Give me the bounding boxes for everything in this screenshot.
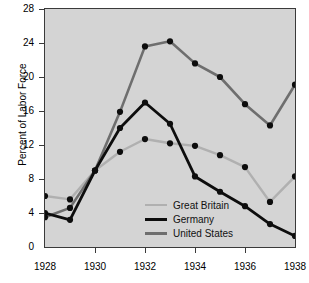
legend-label-germany: Germany (173, 214, 214, 225)
data-point (142, 99, 148, 105)
y-tick-label: 24 (0, 37, 43, 48)
data-point (167, 38, 173, 44)
chart-legend: Great Britain Germany United States (145, 199, 233, 239)
data-point (167, 121, 173, 127)
y-tick-label: 16 (0, 105, 43, 116)
data-point (117, 109, 123, 115)
y-tick-mark (39, 145, 45, 146)
y-tick-mark (39, 213, 45, 214)
x-tick-mark (95, 247, 96, 253)
data-point (192, 173, 198, 179)
y-tick-mark (39, 77, 45, 78)
y-tick-label: 20 (0, 71, 43, 82)
legend-item-germany: Germany (145, 213, 233, 225)
data-point (117, 125, 123, 131)
y-tick-label: 4 (0, 207, 43, 218)
data-point (242, 101, 248, 107)
data-point (67, 196, 73, 202)
x-tick-label: 1930 (72, 261, 118, 272)
plot-area: Great Britain Germany United States 0481… (44, 8, 296, 248)
data-point (217, 74, 223, 80)
legend-label-great-britain: Great Britain (173, 200, 229, 211)
x-tick-mark (195, 247, 196, 253)
x-tick-label: 1934 (172, 261, 218, 272)
legend-label-united-states: United States (173, 228, 233, 239)
data-point (242, 203, 248, 209)
data-point (267, 122, 273, 128)
legend-item-great-britain: Great Britain (145, 199, 233, 211)
y-tick-mark (39, 179, 45, 180)
y-tick-mark (39, 111, 45, 112)
y-tick-mark (39, 9, 45, 10)
y-tick-label: 0 (0, 241, 43, 252)
data-point (117, 149, 123, 155)
data-point (142, 136, 148, 142)
data-point (217, 152, 223, 158)
legend-item-united-states: United States (145, 227, 233, 239)
data-point (142, 43, 148, 49)
legend-swatch-united-states (145, 232, 167, 235)
legend-swatch-germany (145, 218, 167, 221)
data-point (192, 143, 198, 149)
data-point (45, 193, 48, 199)
x-tick-mark (245, 247, 246, 253)
data-point (67, 217, 73, 223)
data-point (192, 60, 198, 66)
series-line-united-states (45, 41, 295, 217)
data-point (267, 199, 273, 205)
x-tick-label: 1932 (122, 261, 168, 272)
data-point (67, 205, 73, 211)
legend-swatch-great-britain (145, 204, 167, 206)
y-tick-label: 8 (0, 173, 43, 184)
x-tick-label: 1928 (22, 261, 68, 272)
data-point (167, 140, 173, 146)
y-tick-label: 28 (0, 3, 43, 14)
y-tick-label: 12 (0, 139, 43, 150)
data-point (267, 221, 273, 227)
unemployment-line-chart: Percent of Labor Force Great Britain Ger… (0, 0, 309, 283)
x-tick-label: 1936 (222, 261, 268, 272)
data-point (242, 164, 248, 170)
data-point (92, 167, 98, 173)
x-tick-mark (145, 247, 146, 253)
x-tick-label: 1938 (272, 261, 309, 272)
y-tick-mark (39, 43, 45, 44)
data-point (217, 189, 223, 195)
